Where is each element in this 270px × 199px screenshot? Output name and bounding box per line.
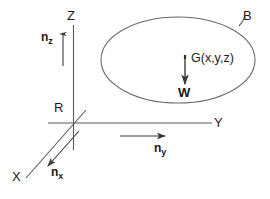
z-axis-label: Z — [67, 9, 75, 22]
n-x-label: nx — [51, 166, 63, 181]
n-z-label: nz — [41, 31, 53, 46]
x-axis-label: X — [12, 170, 21, 183]
y-axis-label: Y — [214, 116, 223, 129]
physics-diagram: Z Y X nz ny nx R G(x,y,z) B W — [0, 0, 270, 199]
weight-vector-label: W — [178, 86, 190, 99]
centroid-point-label: G(x,y,z) — [191, 52, 234, 65]
n-z-label-sub: z — [48, 36, 53, 46]
n-y-label: ny — [154, 142, 166, 157]
body-label: B — [243, 9, 252, 22]
origin-point-label: R — [54, 101, 63, 114]
n-x-label-sub: x — [58, 171, 63, 181]
n-y-label-sub: y — [161, 147, 166, 157]
